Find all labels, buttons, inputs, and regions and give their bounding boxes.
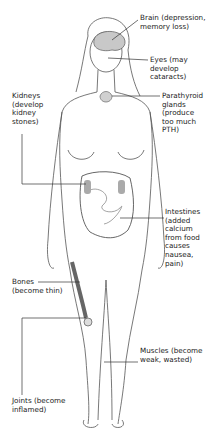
body-diagram: Brain (depression, memory loss) Eyes (ma… xyxy=(0,0,212,434)
label-joints: Joints (become inflamed) xyxy=(12,397,65,414)
label-muscles: Muscles (become weak, wasted) xyxy=(140,347,202,364)
label-bones: Bones (become thin) xyxy=(12,278,63,295)
label-kidneys: Kidneys (develop kidney stones) xyxy=(12,92,43,126)
label-intestines: Intestines (added calcium from food caus… xyxy=(165,208,200,268)
label-parathyroid: Parathyroid glands (produce too much PTH… xyxy=(162,92,203,135)
label-brain: Brain (depression, memory loss) xyxy=(140,14,205,31)
label-eyes: Eyes (may develop cataracts) xyxy=(150,56,188,82)
